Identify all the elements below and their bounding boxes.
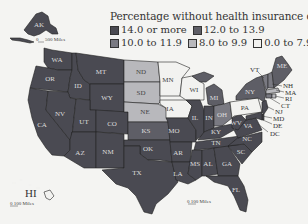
legend-swatch-10-11 xyxy=(110,39,119,48)
legend-row-1: 14.0 or more 12.0 to 13.9 xyxy=(110,24,308,36)
state-label-IN: IN xyxy=(205,114,212,122)
state-label-AK: AK xyxy=(34,21,44,29)
state-label-MS: MS xyxy=(190,160,200,168)
state-label-SD: SD xyxy=(137,89,146,97)
state-MA xyxy=(266,88,280,94)
legend-title: Percentage without health insurance cove… xyxy=(110,10,308,23)
legend-swatch-14plus xyxy=(110,26,119,35)
legend-item-0-7: 0.0 to 7.9 xyxy=(253,37,308,49)
legend-row-2: 10.0 to 11.9 8.0 to 9.9 0.0 to 7.9 xyxy=(110,37,308,49)
state-HI xyxy=(44,190,54,200)
state-label-KY: KY xyxy=(211,128,221,136)
state-label-NV: NV xyxy=(55,110,65,118)
state-label-NY: NY xyxy=(245,88,255,96)
legend-swatch-0-7 xyxy=(253,39,262,48)
state-label-AL: AL xyxy=(203,160,212,168)
state-label-HI: HI xyxy=(25,187,37,199)
callout-DE: DE xyxy=(273,122,282,130)
state-CT xyxy=(266,94,272,98)
legend-label-0-7: 0.0 to 7.9 xyxy=(264,37,308,49)
legend-label-12-13: 12.0 to 13.9 xyxy=(204,24,265,36)
alaska-inset: AK 0 500 Miles xyxy=(10,12,65,43)
state-label-PA: PA xyxy=(241,104,249,112)
state-label-IA: IA xyxy=(166,105,173,113)
state-label-WY: WY xyxy=(101,94,113,102)
state-label-AR: AR xyxy=(173,149,183,157)
legend-item-12-13: 12.0 to 13.9 xyxy=(193,24,265,36)
state-label-TN: TN xyxy=(211,139,220,147)
state-label-ME: ME xyxy=(277,62,288,70)
state-label-IL: IL xyxy=(192,114,199,122)
state-NJ xyxy=(262,100,268,114)
callout-VT: VT xyxy=(250,66,260,74)
state-label-KS: KS xyxy=(142,127,151,135)
legend-swatch-12-13 xyxy=(193,26,202,35)
mainland-scale-text: 0 100 Miles xyxy=(187,199,211,204)
state-label-NM: NM xyxy=(102,148,114,156)
callout-DC: DC xyxy=(270,130,280,138)
state-label-WI: WI xyxy=(190,86,200,94)
state-label-SC: SC xyxy=(237,148,246,156)
state-label-OH: OH xyxy=(217,111,227,119)
state-label-WV: WV xyxy=(230,119,242,127)
legend-swatch-8-9 xyxy=(188,39,197,48)
state-label-AZ: AZ xyxy=(75,149,84,157)
state-label-FL: FL xyxy=(232,186,240,194)
legend: Percentage without health insurance cove… xyxy=(110,10,308,49)
state-label-CA: CA xyxy=(37,121,47,129)
state-label-TX: TX xyxy=(132,169,141,177)
state-label-GA: GA xyxy=(222,160,232,168)
legend-item-8-9: 8.0 to 9.9 xyxy=(188,37,247,49)
hawaii-scale-text: 0 100 Miles xyxy=(10,201,34,206)
alaska-scale-zero: 0 xyxy=(36,37,39,42)
legend-item-14plus: 14.0 or more xyxy=(110,24,187,36)
state-label-MI: MI xyxy=(210,94,219,102)
alaska-scale-text: 500 Miles xyxy=(45,37,65,42)
state-label-NC: NC xyxy=(242,135,252,143)
state-label-LA: LA xyxy=(173,170,182,178)
state-label-WA: WA xyxy=(52,56,63,64)
state-label-UT: UT xyxy=(79,118,89,126)
state-label-ND: ND xyxy=(136,68,146,76)
state-FL xyxy=(206,176,248,212)
state-label-VA: VA xyxy=(243,122,252,130)
state-label-OR: OR xyxy=(45,75,55,83)
legend-label-10-11: 10.0 to 11.9 xyxy=(121,37,182,49)
state-label-CO: CO xyxy=(107,120,117,128)
state-label-MT: MT xyxy=(96,68,107,76)
state-label-MO: MO xyxy=(168,127,179,135)
state-label-MN: MN xyxy=(162,76,173,84)
legend-label-8-9: 8.0 to 9.9 xyxy=(199,37,247,49)
state-label-OK: OK xyxy=(143,145,153,153)
state-label-ID: ID xyxy=(74,82,81,90)
alaska-aleutians xyxy=(10,38,34,43)
legend-label-14plus: 14.0 or more xyxy=(121,24,187,36)
state-label-NE: NE xyxy=(140,108,149,116)
legend-item-10-11: 10.0 to 11.9 xyxy=(110,37,182,49)
